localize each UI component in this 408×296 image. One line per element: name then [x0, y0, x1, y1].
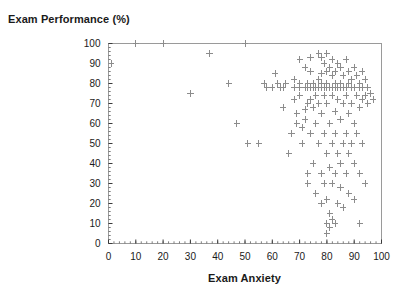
- data-point: [261, 80, 267, 86]
- data-point: [335, 96, 341, 102]
- data-point: [206, 50, 212, 56]
- scatter-plot-svg: 0102030405060708090100010203040506070809…: [0, 0, 408, 296]
- data-point: [329, 216, 335, 222]
- data-point: [329, 92, 335, 98]
- data-point: [305, 100, 311, 106]
- data-point: [133, 40, 139, 46]
- data-point: [307, 130, 313, 136]
- data-point: [272, 70, 278, 76]
- data-point: [160, 40, 166, 46]
- data-point: [343, 84, 349, 90]
- x-axis-tick-label: 10: [130, 251, 142, 262]
- data-point: [294, 110, 300, 116]
- y-axis-tick-label: 20: [89, 198, 101, 209]
- x-axis-tick-label: 60: [267, 251, 279, 262]
- data-point: [332, 220, 338, 226]
- data-point: [346, 68, 352, 74]
- data-point: [329, 140, 335, 146]
- data-point-group: [108, 40, 376, 236]
- data-point: [329, 180, 335, 186]
- data-point: [362, 92, 368, 98]
- chart-container: Exam Performance (%) 0102030405060708090…: [0, 0, 408, 296]
- data-point: [280, 104, 286, 110]
- data-point: [291, 84, 297, 90]
- data-point: [310, 104, 316, 110]
- data-point: [343, 92, 349, 98]
- data-point: [226, 80, 232, 86]
- data-point: [335, 150, 341, 156]
- x-axis-tick-label: 0: [106, 251, 112, 262]
- data-point: [337, 184, 343, 190]
- data-point: [324, 50, 330, 56]
- data-point: [324, 230, 330, 236]
- data-point: [321, 130, 327, 136]
- data-point: [346, 80, 352, 86]
- data-point: [337, 160, 343, 166]
- data-point: [297, 84, 303, 90]
- data-point: [329, 56, 335, 62]
- data-point: [359, 84, 365, 90]
- data-point: [286, 150, 292, 156]
- data-point: [362, 76, 368, 82]
- data-point: [354, 130, 360, 136]
- data-point: [359, 140, 365, 146]
- data-point: [351, 196, 357, 202]
- data-point: [370, 96, 376, 102]
- data-point: [329, 72, 335, 78]
- y-axis-tick-label: 50: [89, 138, 101, 149]
- data-point: [264, 84, 270, 90]
- data-point: [302, 106, 308, 112]
- data-point: [321, 180, 327, 186]
- data-point: [307, 54, 313, 60]
- data-point: [316, 76, 322, 82]
- data-point: [108, 60, 114, 66]
- data-point: [316, 140, 322, 146]
- data-point: [348, 76, 354, 82]
- data-point: [324, 196, 330, 202]
- data-point: [365, 84, 371, 90]
- data-point: [337, 116, 343, 122]
- data-point: [318, 110, 324, 116]
- data-point: [283, 80, 289, 86]
- data-point: [340, 204, 346, 210]
- y-axis-tick-label: 80: [89, 78, 101, 89]
- data-point: [359, 96, 365, 102]
- data-point: [302, 116, 308, 122]
- y-axis-tick-label: 90: [89, 58, 101, 69]
- x-axis-tick-label: 80: [321, 251, 333, 262]
- data-point: [357, 104, 363, 110]
- data-point: [327, 210, 333, 216]
- data-point: [316, 50, 322, 56]
- data-point: [324, 100, 330, 106]
- data-point: [321, 60, 327, 66]
- data-point: [299, 124, 305, 130]
- data-point: [359, 68, 365, 74]
- data-point: [318, 70, 324, 76]
- data-point: [346, 150, 352, 156]
- y-axis-tick-label: 0: [95, 238, 101, 249]
- data-point: [340, 100, 346, 106]
- y-axis-tick-label: 10: [89, 218, 101, 229]
- data-point: [343, 56, 349, 62]
- data-point: [313, 190, 319, 196]
- data-point: [340, 72, 346, 78]
- data-point: [234, 120, 240, 126]
- data-point: [351, 160, 357, 166]
- data-point: [318, 54, 324, 60]
- x-axis-label: Exam Anxiety: [108, 272, 381, 284]
- data-point: [357, 220, 363, 226]
- data-point: [291, 96, 297, 102]
- data-point: [335, 60, 341, 66]
- y-axis-tick-label: 30: [89, 178, 101, 189]
- data-point: [346, 110, 352, 116]
- data-point: [354, 92, 360, 98]
- data-point: [348, 100, 354, 106]
- data-point: [275, 80, 281, 86]
- x-axis-tick-label: 100: [373, 251, 390, 262]
- data-point: [340, 140, 346, 146]
- data-point: [288, 130, 294, 136]
- x-axis-tick-label: 20: [158, 251, 170, 262]
- data-point: [305, 180, 311, 186]
- data-point: [324, 68, 330, 74]
- data-point: [310, 160, 316, 166]
